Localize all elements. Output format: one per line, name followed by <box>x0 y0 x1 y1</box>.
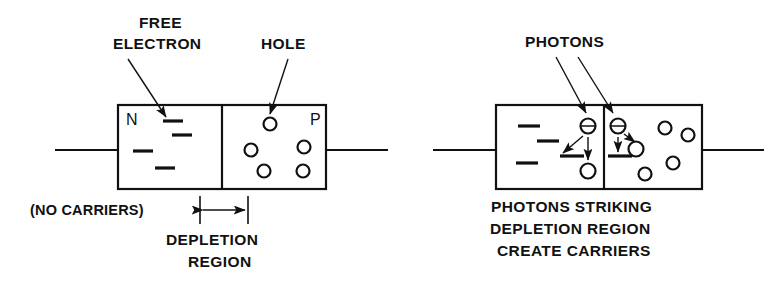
diagram-canvas: FREE ELECTRON HOLE N P <box>0 0 777 281</box>
right-caption-line3: CREATE CARRIERS <box>497 242 651 259</box>
no-carriers-label: (NO CARRIERS) <box>30 202 144 218</box>
hole-circle <box>639 168 652 181</box>
left-p-region-letter: P <box>310 111 321 128</box>
free-electron-label-line1: FREE <box>139 14 182 31</box>
depletion-dimension <box>200 196 248 224</box>
left-electron-dashes <box>133 121 192 168</box>
right-electron-dashes <box>516 126 559 163</box>
left-n-region-letter: N <box>126 111 138 128</box>
electron-symbol-left <box>581 119 596 134</box>
electron-recoil-arrow-right <box>624 134 635 142</box>
left-diagram-group: FREE ELECTRON HOLE N P <box>30 14 388 270</box>
hole-circle <box>667 157 680 170</box>
generated-hole-circle <box>629 142 644 157</box>
left-holes <box>245 118 311 178</box>
hole-circle <box>659 122 672 135</box>
depletion-label-line1: DEPLETION <box>166 231 258 248</box>
hole-circle <box>682 129 695 142</box>
free-electron-arrow <box>128 59 166 117</box>
right-caption-line1: PHOTONS STRIKING <box>491 198 652 215</box>
right-caption-line2: DEPLETION REGION <box>490 220 651 237</box>
electron-symbol-right <box>611 119 626 134</box>
right-existing-holes <box>639 122 695 181</box>
electron-recoil-arrow-left <box>563 136 583 153</box>
photons-label: PHOTONS <box>525 33 604 50</box>
right-diode-body <box>496 105 702 189</box>
hole-circle <box>264 118 277 131</box>
right-generated-holes <box>581 142 644 179</box>
right-diagram-group: PHOTONS <box>433 33 764 259</box>
hole-circle <box>297 165 310 178</box>
depletion-label-line2: REGION <box>188 253 252 270</box>
free-electron-label-line2: ELECTRON <box>113 35 201 52</box>
hole-circle <box>245 144 258 157</box>
figure-root: FREE ELECTRON HOLE N P <box>0 0 777 281</box>
hole-circle <box>298 141 311 154</box>
hole-label: HOLE <box>261 35 306 52</box>
generated-hole-circle <box>581 164 596 179</box>
hole-circle <box>258 165 271 178</box>
